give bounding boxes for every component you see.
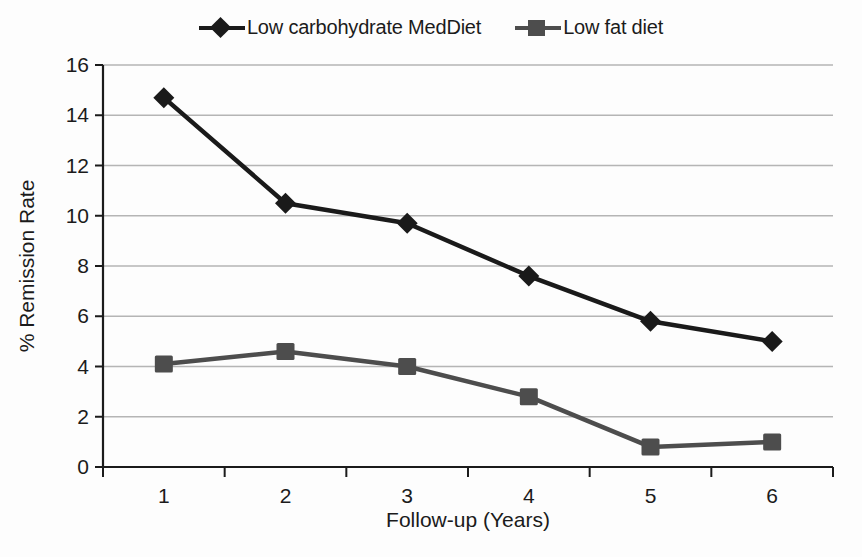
data-point-marker <box>642 438 660 455</box>
data-point-marker <box>398 358 416 375</box>
gridlines <box>103 65 833 417</box>
y-axis-tick-label: 16 <box>66 53 89 76</box>
data-point-marker <box>763 433 781 450</box>
y-axis-tick-label: 8 <box>77 254 89 277</box>
x-axis-tick-label: 4 <box>523 484 535 507</box>
x-axis-title: Follow-up (Years) <box>386 508 550 531</box>
y-axis-tick-label: 4 <box>77 355 89 378</box>
x-axis-tick-label: 3 <box>401 484 413 507</box>
data-point-marker <box>277 343 295 360</box>
data-series-layer <box>153 87 782 455</box>
x-axis-tick-label: 6 <box>766 484 778 507</box>
x-axis-tick-labels: 123456 <box>158 484 778 507</box>
data-point-marker <box>640 311 661 332</box>
data-point-marker <box>518 266 539 287</box>
y-axis-tick-labels: 0246810121416 <box>66 53 90 478</box>
data-point-marker <box>155 355 173 372</box>
y-axis-title: % Remission Rate <box>15 180 38 353</box>
data-point-marker <box>762 331 783 352</box>
x-axis-tick-label: 2 <box>280 484 292 507</box>
series-line-2 <box>164 351 772 446</box>
data-point-marker <box>520 388 538 405</box>
y-axis-tick-label: 14 <box>66 103 90 126</box>
y-axis-tick-label: 0 <box>77 455 89 478</box>
y-axis-tick-label: 12 <box>66 154 89 177</box>
y-axis-tick-label: 10 <box>66 204 89 227</box>
x-axis-tick-label: 5 <box>645 484 657 507</box>
series-line-1 <box>164 98 772 342</box>
plot-area: 0246810121416 123456 Follow-up (Years) %… <box>0 0 862 557</box>
y-axis-tick-label: 6 <box>77 304 89 327</box>
y-axis-ticks <box>95 65 103 467</box>
x-axis-ticks <box>103 467 833 477</box>
y-axis-tick-label: 2 <box>77 405 89 428</box>
x-axis-tick-label: 1 <box>158 484 170 507</box>
chart-container: Low carbohydrate MedDiet Low fat diet 02… <box>0 0 862 557</box>
